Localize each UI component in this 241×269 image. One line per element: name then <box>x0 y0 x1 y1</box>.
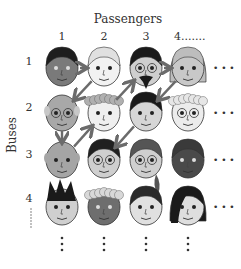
face-bus-4-passenger-2 <box>85 188 124 226</box>
path-arrow <box>74 127 91 146</box>
column-1-continuation-dots <box>61 237 64 252</box>
face-bus-3-passenger-4 <box>172 139 204 178</box>
path-arrow <box>117 126 134 145</box>
column-3-continuation-dots <box>145 237 148 252</box>
face-bus-3-passenger-2 <box>88 139 120 178</box>
path-arrow <box>116 82 133 100</box>
face-bus-2-passenger-3 <box>130 92 162 131</box>
face-bus-3-passenger-1 <box>44 142 80 178</box>
face-bus-4-passenger-1 <box>46 179 78 225</box>
face-bus-1-passenger-1 <box>46 47 78 86</box>
face-bus-2-passenger-4 <box>169 94 208 132</box>
face-bus-4-passenger-3 <box>130 186 162 225</box>
face-bus-1-passenger-4 <box>170 47 206 86</box>
column-2-continuation-dots <box>103 237 106 252</box>
enumeration-diagram: • • •• • •• • •• • • <box>0 0 241 269</box>
row-1-continuation-dots: • • • <box>213 63 235 73</box>
column-4-continuation-dots <box>187 237 190 252</box>
row-4-label-dots <box>30 208 31 227</box>
row-3-continuation-dots: • • • <box>213 155 235 165</box>
row-4-continuation-dots: • • • <box>213 202 235 212</box>
row-2-continuation-dots: • • • <box>213 108 235 118</box>
face-bus-1-passenger-3 <box>130 47 162 89</box>
face-bus-2-passenger-1 <box>44 95 80 131</box>
face-bus-4-passenger-4 <box>170 186 206 225</box>
face-bus-1-passenger-2 <box>88 47 120 86</box>
